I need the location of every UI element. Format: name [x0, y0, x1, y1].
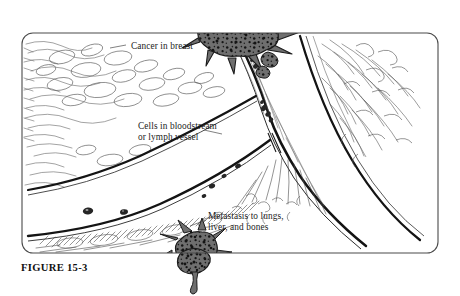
frame-fill [22, 33, 438, 253]
illustration-canvas [0, 0, 460, 296]
frame-interior [22, 0, 438, 294]
figure-illustration: Cancer in breast Cells in bloodstream or… [0, 0, 460, 296]
